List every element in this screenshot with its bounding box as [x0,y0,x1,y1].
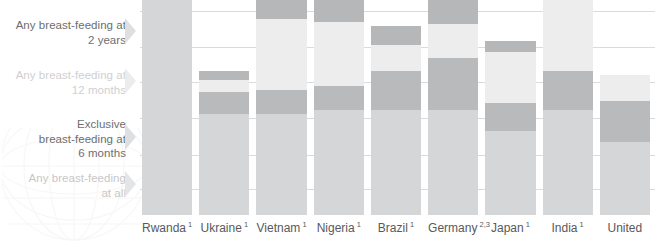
bar-segment [543,71,593,110]
bar-ukraine[interactable] [199,71,249,215]
category-label-column: Any breast-feeding at 2 years Any breast… [0,0,140,215]
bar-united[interactable] [600,75,650,215]
bar-segment [314,0,364,22]
x-tick-label: United [600,221,650,235]
bar-segment [142,0,192,215]
bar-segment [256,19,306,90]
label-any-breastfeeding-2-years: Any breast-feeding at 2 years [16,18,126,47]
bar-segment [485,103,535,131]
label-line: Any breast-feeding at [16,18,126,33]
bar-segment [485,52,535,104]
chevron-right-pointer-icon [125,124,136,150]
bar-segment [371,26,421,45]
bar-segment [600,75,650,101]
label-line: at all [29,186,126,201]
chevron-right-pointer-icon [125,171,136,197]
bar-segment [600,101,650,142]
bar-segment [199,114,249,215]
bar-segment [600,142,650,215]
bar-segment [371,71,421,110]
label-line: 12 months [16,83,126,98]
x-tick-label: Rwanda 1 [142,221,192,235]
bar-segment [314,22,364,87]
label-exclusive-breastfeeding-6-months: Exclusive breast-feeding at 6 months [39,117,126,161]
bar-segment [371,45,421,71]
label-line: 2 years [16,33,126,48]
bar-segment [428,58,478,110]
label-any-breastfeeding-12-months: Any breast-feeding at 12 months [16,68,126,97]
footnote-marker: 1 [578,220,584,229]
x-tick-label: Vietnam 1 [256,221,306,235]
x-tick-label: Japan 1 [485,221,535,235]
x-tick-label: Nigeria 1 [314,221,364,235]
bar-segment [314,110,364,215]
bar-vietnam[interactable] [256,0,306,215]
chevron-right-pointer-icon [125,18,136,44]
bar-segment [428,24,478,58]
bar-segment [256,90,306,114]
x-tick-label: India 1 [543,221,593,235]
bar-segment [199,80,249,93]
bar-segment [428,110,478,215]
label-line: Exclusive [39,117,126,132]
footnote-marker: 1 [300,220,306,229]
bar-segment [371,110,421,215]
x-tick-label: Germany 2,3 [428,221,478,235]
plot-area [140,0,655,215]
bar-segment [256,0,306,19]
bar-germany[interactable] [428,0,478,215]
bar-segment [199,71,249,80]
label-line: Any breast-feeding [29,171,126,186]
label-line: breast-feeding at [39,132,126,147]
bar-segment [428,0,478,24]
bar-india[interactable] [543,0,593,215]
bar-group [140,0,655,215]
footnote-marker: 1 [186,220,192,229]
bar-nigeria[interactable] [314,0,364,215]
bar-segment [543,110,593,215]
bar-japan[interactable] [485,41,535,215]
chevron-right-pointer-icon [125,68,136,94]
footnote-marker: 1 [524,220,530,229]
bar-segment [485,131,535,215]
footnote-marker: 1 [242,220,248,229]
bar-segment [199,92,249,114]
footnote-marker: 1 [355,220,361,229]
label-any-breastfeeding-at-all: Any breast-feeding at all [29,171,126,200]
label-line: 6 months [39,146,126,161]
bar-segment [314,86,364,110]
bar-segment [485,41,535,52]
bar-brazil[interactable] [371,26,421,215]
x-tick-label: Ukraine 1 [199,221,249,235]
bar-segment [543,0,593,71]
breastfeeding-stacked-bar-chart: Any breast-feeding at 2 years Any breast… [0,0,655,241]
bar-rwanda[interactable] [142,0,192,215]
footnote-marker: 1 [408,220,414,229]
x-axis-tick-labels: Rwanda 1Ukraine 1Vietnam 1Nigeria 1Brazi… [140,215,655,241]
label-line: Any breast-feeding at [16,68,126,83]
bar-segment [256,114,306,215]
x-tick-label: Brazil 1 [371,221,421,235]
